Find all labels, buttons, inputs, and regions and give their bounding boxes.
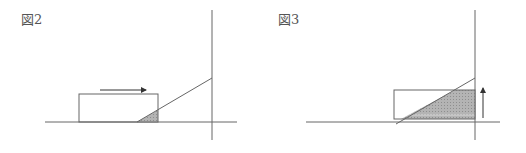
fig2-slope-line [137, 78, 212, 122]
figure-2 [45, 10, 237, 140]
figure-3 [306, 10, 500, 140]
diagram-canvas [0, 0, 526, 153]
